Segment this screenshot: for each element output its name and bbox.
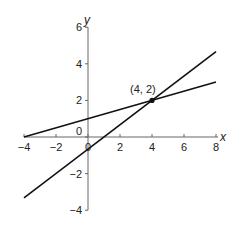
y-tick-label: −2: [69, 168, 82, 180]
y-tick-labels: −4−20246: [69, 21, 82, 216]
x-tick-label: −4: [18, 141, 31, 153]
intersection-point: [149, 98, 154, 103]
x-tick-label: 8: [213, 141, 219, 153]
y-axis-title: y: [83, 13, 91, 27]
chart-plot: −4−202468 −4−20246 x y (4, 2): [0, 0, 238, 226]
series-line-1: [24, 82, 216, 137]
y-tick-label: 0: [76, 125, 82, 137]
x-tick-label: 2: [117, 141, 123, 153]
data-points: [149, 98, 154, 103]
x-tick-label: 6: [181, 141, 187, 153]
x-tick-label: 4: [149, 141, 155, 153]
y-tick-label: 4: [76, 58, 82, 70]
axes: [24, 27, 218, 210]
y-tick-label: −4: [69, 204, 82, 216]
x-tick-label: −2: [50, 141, 63, 153]
series-line-2: [24, 52, 216, 198]
data-lines: [24, 52, 216, 198]
point-annotation: (4, 2): [130, 83, 156, 95]
x-axis-title: x: [219, 130, 227, 144]
y-tick-label: 2: [76, 94, 82, 106]
tick-marks: [24, 27, 216, 210]
x-tick-labels: −4−202468: [18, 141, 219, 153]
y-tick-label: 6: [76, 21, 82, 33]
